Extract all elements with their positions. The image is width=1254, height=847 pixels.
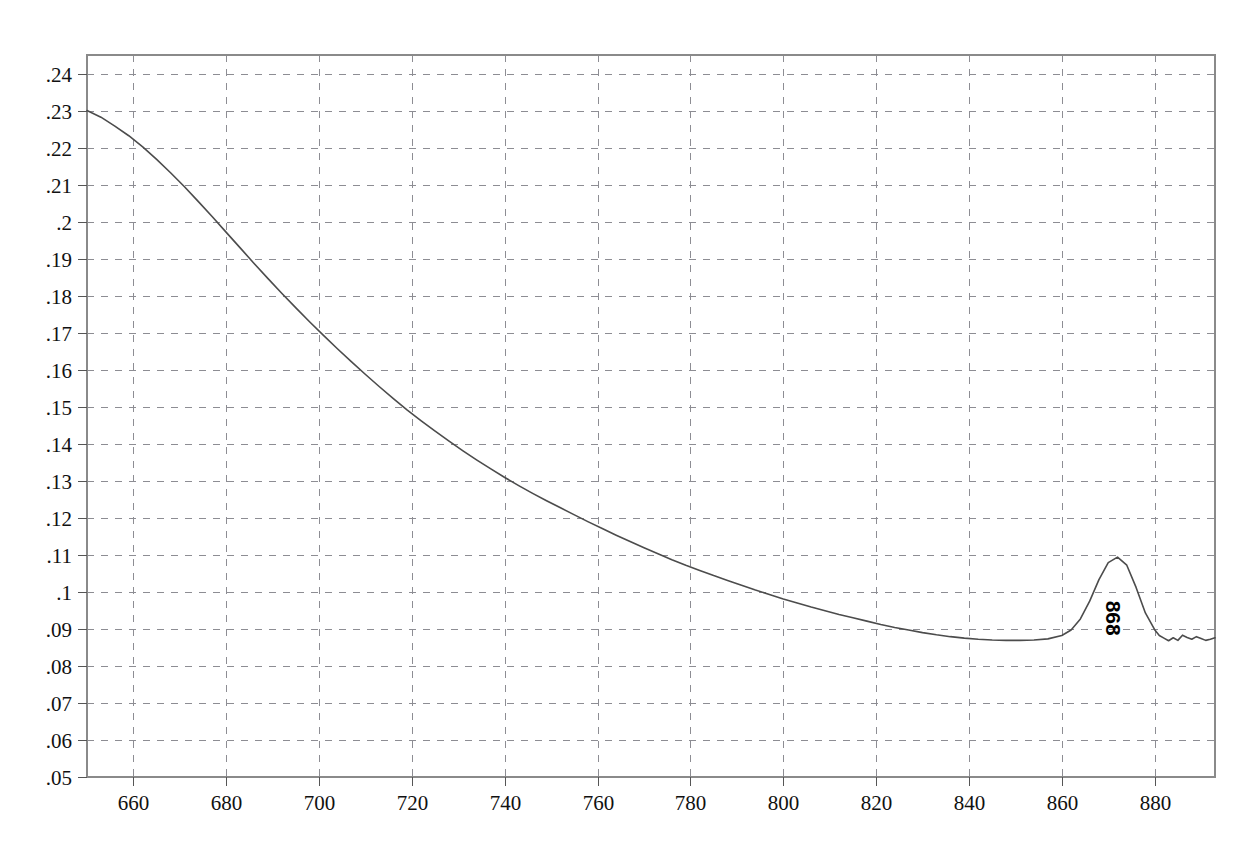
x-tick-label: 700 (304, 791, 336, 815)
spectrum-series (87, 111, 1215, 641)
x-tick-label: 840 (954, 791, 986, 815)
chart-canvas: .05.06.07.08.09.1.11.12.13.14.15.16.17.1… (0, 0, 1254, 847)
y-tick-label: .17 (46, 322, 72, 346)
y-axis-ticks: .05.06.07.08.09.1.11.12.13.14.15.16.17.1… (46, 63, 87, 790)
y-tick-label: .23 (46, 100, 72, 124)
y-tick-label: .18 (46, 285, 72, 309)
grid-lines (87, 55, 1215, 778)
x-tick-label: 660 (118, 791, 150, 815)
x-tick-label: 820 (861, 791, 893, 815)
y-tick-label: .21 (46, 174, 72, 198)
y-tick-label: .1 (56, 581, 72, 605)
x-tick-label: 720 (397, 791, 429, 815)
peak-annotations: 868 (1102, 601, 1125, 636)
y-tick-label: .14 (46, 433, 73, 457)
x-tick-label: 780 (675, 791, 707, 815)
y-tick-label: .16 (46, 359, 72, 383)
x-tick-label: 880 (1140, 791, 1172, 815)
plot-border (87, 55, 1215, 777)
x-axis-ticks: 660680700720740760780800820840860880 (118, 777, 1172, 815)
y-tick-label: .19 (46, 248, 72, 272)
y-tick-label: .06 (46, 729, 72, 753)
x-tick-label: 860 (1047, 791, 1079, 815)
x-tick-label: 740 (490, 791, 522, 815)
x-tick-label: 680 (211, 791, 243, 815)
spectrum-chart: .05.06.07.08.09.1.11.12.13.14.15.16.17.1… (0, 0, 1254, 847)
y-tick-label: .05 (46, 766, 72, 790)
y-tick-label: .07 (46, 692, 72, 716)
spectrum-line (87, 111, 1215, 641)
y-tick-label: .11 (47, 544, 72, 568)
y-tick-label: .22 (46, 137, 72, 161)
plot-frame (87, 55, 1215, 777)
x-tick-label: 800 (768, 791, 800, 815)
y-tick-label: .13 (46, 470, 72, 494)
y-tick-label: .15 (46, 396, 72, 420)
peak-label: 868 (1102, 601, 1125, 636)
y-tick-label: .24 (46, 63, 73, 87)
y-tick-label: .12 (46, 507, 72, 531)
y-tick-label: .2 (56, 211, 72, 235)
y-tick-label: .08 (46, 655, 72, 679)
y-tick-label: .09 (46, 618, 72, 642)
x-tick-label: 760 (583, 791, 615, 815)
